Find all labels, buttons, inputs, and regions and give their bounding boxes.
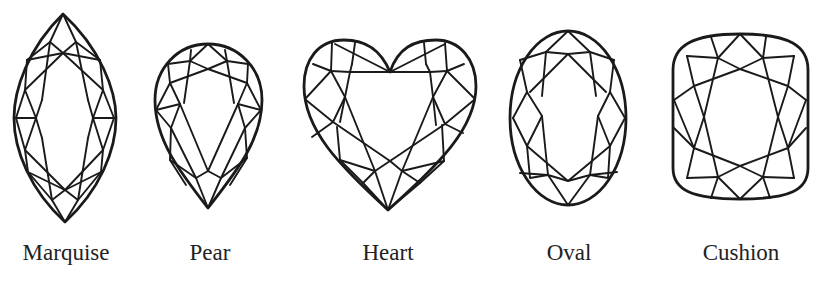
pear-label: Pear	[190, 240, 231, 266]
gem-cuts-diagram: Marquise Pear Heart Oval Cushion	[0, 0, 816, 282]
oval-shape-icon	[510, 31, 626, 205]
pear-shape-icon	[155, 44, 262, 208]
marquise-shape-icon	[14, 14, 116, 222]
marquise-label: Marquise	[23, 240, 110, 266]
heart-label: Heart	[362, 240, 413, 266]
oval-label: Oval	[547, 240, 592, 266]
heart-shape-icon	[304, 40, 476, 210]
cushion-shape-icon	[673, 34, 808, 199]
cushion-label: Cushion	[703, 240, 780, 266]
